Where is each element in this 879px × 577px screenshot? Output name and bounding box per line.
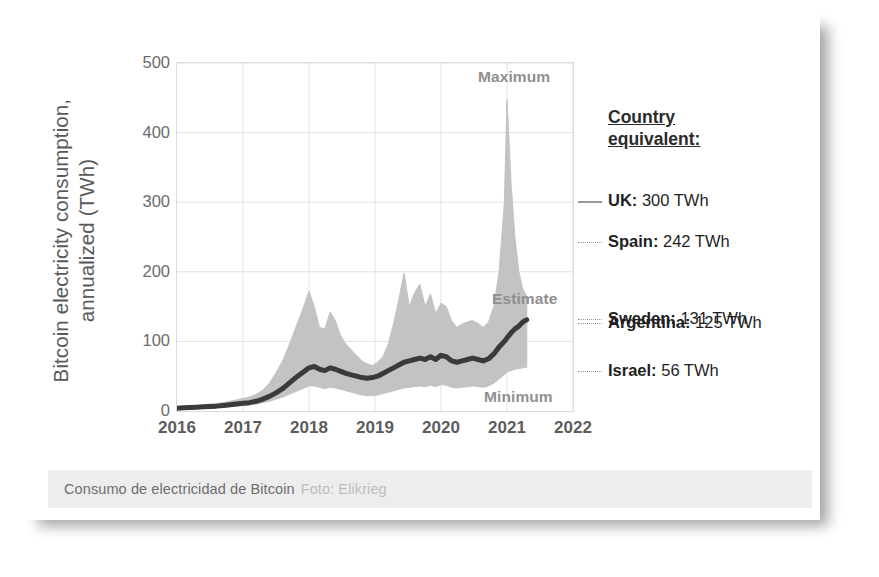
legend-entry-argentina: Argentina: 125 TWh: [608, 313, 762, 332]
legend-country-name: Spain:: [608, 232, 663, 250]
caption-text: Consumo de electricidad de Bitcoin: [64, 481, 295, 497]
x-axis-tick-labels: 2016201720182019202020212022: [176, 418, 574, 448]
legend-entry-spain: Spain: 242 TWh: [608, 232, 730, 251]
y-axis-tick-labels: 0100200300400500: [118, 10, 170, 465]
legend-connector-dash: [578, 323, 602, 324]
y-tick-label: 300: [118, 192, 170, 211]
x-tick-label: 2022: [554, 418, 592, 438]
x-tick-label: 2020: [422, 418, 460, 438]
legend-country-name: Argentina:: [608, 313, 695, 331]
x-tick-label: 2019: [356, 418, 394, 438]
chart-legend: Country equivalent: UK: 300 TWhSpain: 24…: [574, 106, 812, 406]
legend-connector-dash: [578, 371, 602, 372]
legend-country-value: 242 TWh: [663, 232, 730, 250]
chart-figure: Bitcoin electricity consumption, annuali…: [22, 10, 820, 465]
y-tick-label: 200: [118, 261, 170, 280]
image-caption-bar: Consumo de electricidad de Bitcoin Foto:…: [48, 470, 812, 508]
legend-country-value: 125 TWh: [695, 313, 762, 331]
x-tick-label: 2017: [224, 418, 262, 438]
caption-photo-credit: Foto: Elikrieg: [301, 481, 387, 497]
legend-entry-uk: UK: 300 TWh: [608, 191, 709, 210]
legend-country-value: 56 TWh: [661, 361, 718, 379]
legend-country-name: Israel:: [608, 361, 661, 379]
min-max-band: [177, 99, 527, 409]
legend-country-value: 300 TWh: [642, 191, 709, 209]
legend-connector-dash: [578, 319, 602, 320]
page-root: Bitcoin electricity consumption, annuali…: [0, 0, 879, 577]
y-tick-label: 400: [118, 122, 170, 141]
y-tick-label: 0: [118, 401, 170, 420]
y-tick-label: 100: [118, 331, 170, 350]
x-tick-label: 2021: [488, 418, 526, 438]
annotation-estimate: Estimate: [492, 290, 557, 308]
plot-svg: [177, 63, 573, 411]
plot-area: [176, 62, 574, 412]
y-axis-title: Bitcoin electricity consumption, annuali…: [48, 51, 99, 431]
legend-connector-dash: [578, 201, 602, 203]
annotation-maximum: Maximum: [478, 68, 550, 86]
legend-country-name: UK:: [608, 191, 642, 209]
article-image-card: Bitcoin electricity consumption, annuali…: [22, 10, 820, 520]
y-tick-label: 500: [118, 53, 170, 72]
range-band: [177, 99, 527, 409]
x-tick-label: 2016: [158, 418, 196, 438]
annotation-minimum: Minimum: [484, 388, 553, 406]
legend-connector-dash: [578, 242, 602, 243]
legend-entry-israel: Israel: 56 TWh: [608, 361, 719, 380]
x-tick-label: 2018: [290, 418, 328, 438]
legend-title: Country equivalent:: [608, 106, 700, 151]
